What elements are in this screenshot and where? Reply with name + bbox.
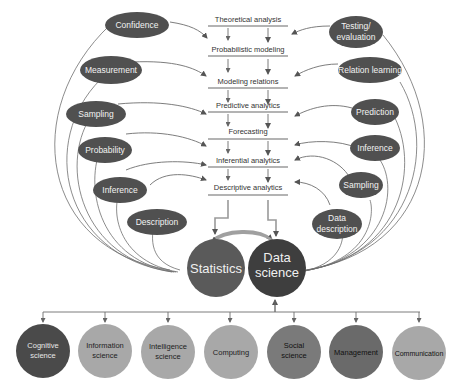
svg-text:Communication: Communication [395,350,444,357]
oval-sampling: Sampling [66,101,126,127]
svg-text:Relation learning: Relation learning [338,65,402,75]
svg-text:science: science [281,351,306,360]
stage-theoretical-analysis: Theoretical analysis [208,15,288,26]
svg-text:Information: Information [86,341,124,350]
stage-descriptive-analytics: Descriptive analytics [208,183,288,195]
oval-testing-evaluation: Testing/ evaluation [329,16,383,48]
stage-probabilistic-modeling: Probabilistic modeling [208,45,288,56]
field-intelligence-science: Intelligence science [141,325,195,379]
oval-prediction: Prediction [351,99,399,125]
svg-text:Measurement: Measurement [85,65,138,75]
core: Statistics Data science [187,231,306,297]
svg-text:Theoretical analysis: Theoretical analysis [215,15,282,24]
field-management: Management [329,325,383,379]
fields: Cognitive science Information science In… [16,324,446,380]
data-science-circle: Data science [248,239,306,297]
oval-description: Description [127,209,187,235]
svg-text:Computing: Computing [213,348,249,357]
oval-relation-learning: Relation learning [338,57,402,83]
svg-text:Forecasting: Forecasting [228,127,267,136]
field-social-science: Social science [267,325,321,379]
fields-connector [43,300,420,322]
field-communication: Communication [392,326,446,380]
svg-text:Predictive analytics: Predictive analytics [216,101,280,110]
oval-data-description: Data description [312,209,362,239]
data-science-diagram: Theoretical analysis Probabilistic model… [0,0,465,388]
svg-text:Confidence: Confidence [115,20,158,30]
svg-text:evaluation: evaluation [337,32,376,42]
svg-text:science: science [155,352,180,361]
svg-text:Sampling: Sampling [78,109,114,119]
svg-text:Inferential analytics: Inferential analytics [216,156,280,165]
svg-text:Social: Social [284,341,305,350]
svg-text:Probability: Probability [85,145,125,155]
svg-text:Inference: Inference [102,185,138,195]
svg-text:Management: Management [334,348,379,357]
oval-probability: Probability [78,137,132,163]
svg-text:Cognitive: Cognitive [27,341,58,350]
svg-text:Descriptive analytics: Descriptive analytics [214,183,283,192]
statistics-circle: Statistics [187,239,245,297]
oval-sampling-right: Sampling [339,172,383,198]
oval-inference-right: Inference [350,135,400,161]
svg-text:Intelligence: Intelligence [149,342,187,351]
svg-text:science: science [255,265,299,280]
left-concepts: Confidence Measurement Sampling Probabil… [66,12,187,235]
stage-modeling-relations: Modeling relations [208,77,288,88]
svg-text:Testing/: Testing/ [341,21,371,31]
field-computing: Computing [204,325,258,379]
svg-text:Probabilistic modeling: Probabilistic modeling [212,45,285,54]
right-concepts: Testing/ evaluation Relation learning Pr… [312,16,402,239]
svg-text:science: science [30,351,55,360]
svg-text:Data: Data [263,250,291,265]
oval-confidence: Confidence [105,12,169,38]
svg-text:Modeling relations: Modeling relations [218,77,279,86]
svg-text:Inference: Inference [357,143,393,153]
svg-text:science: science [92,351,117,360]
svg-text:Statistics: Statistics [190,261,243,276]
svg-text:Sampling: Sampling [343,180,379,190]
stage-inferential-analytics: Inferential analytics [208,156,288,167]
field-cognitive-science: Cognitive science [16,324,70,378]
svg-text:Prediction: Prediction [356,107,394,117]
svg-text:Data: Data [328,213,346,223]
stage-pipeline: Theoretical analysis Probabilistic model… [208,15,288,236]
svg-text:Description: Description [136,217,179,227]
stage-predictive-analytics: Predictive analytics [208,101,288,112]
stage-forecasting: Forecasting [208,127,288,139]
svg-text:description: description [316,224,357,234]
field-information-science: Information science [78,324,132,378]
oval-inference-left: Inference [93,177,147,203]
oval-measurement: Measurement [80,56,142,84]
